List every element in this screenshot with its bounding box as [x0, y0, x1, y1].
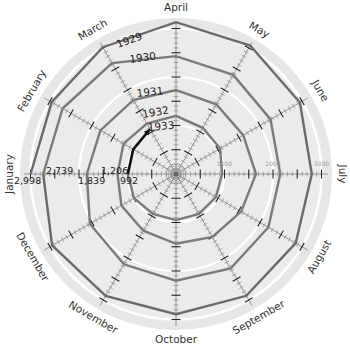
value-label: 1,839 — [78, 175, 105, 186]
year-label-1933: 1933 — [147, 119, 175, 133]
center-hub — [174, 172, 179, 177]
scale-label-1000: 1000 — [217, 160, 232, 167]
month-label-april: April — [164, 1, 188, 13]
value-label: 992 — [120, 175, 138, 186]
month-label-july: July — [337, 164, 349, 184]
value-label: 2,739 — [46, 165, 73, 176]
value-label: 2,998 — [14, 175, 41, 186]
scale-label-3000: 3000 — [314, 160, 329, 167]
chart-canvas: JanuaryFebruaryMarchAprilMayJuneJulyAugu… — [0, 0, 350, 344]
scale-label-2000: 2000 — [265, 160, 280, 167]
month-label-may: May — [247, 19, 272, 40]
spiral-radar-chart: JanuaryFebruaryMarchAprilMayJuneJulyAugu… — [0, 0, 350, 344]
month-label-october: October — [155, 333, 198, 344]
